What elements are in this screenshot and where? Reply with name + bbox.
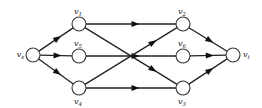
arrowhead-icon <box>132 85 140 91</box>
arrowhead-icon <box>205 36 215 45</box>
arrowhead-icon <box>148 38 158 47</box>
arrowhead-icon <box>206 52 214 58</box>
arrowhead-icon <box>53 34 63 43</box>
arrowhead-icon <box>132 21 140 27</box>
node-label-v3: v3 <box>178 97 187 107</box>
network-diagram: vsv1v5v4v2v6v3vt <box>0 0 262 108</box>
arrowhead-icon <box>205 66 215 75</box>
node-v3 <box>176 81 190 95</box>
node-v5 <box>72 49 86 63</box>
node-vs <box>26 48 40 62</box>
arrowhead-icon <box>53 68 63 78</box>
node-v4 <box>72 81 86 95</box>
arrowhead-icon <box>148 65 158 74</box>
node-label-v4: v4 <box>74 97 83 107</box>
arrowhead-icon <box>54 52 62 58</box>
node-label-vt: vt <box>243 50 251 60</box>
node-v2 <box>176 17 190 31</box>
node-v1 <box>72 17 86 31</box>
node-label-v5: v5 <box>74 39 83 49</box>
node-v6 <box>176 49 190 63</box>
node-label-vs: vs <box>17 50 25 60</box>
edges-layer <box>39 21 227 91</box>
node-label-v6: v6 <box>178 39 187 49</box>
node-label-v2: v2 <box>178 7 187 17</box>
node-vt <box>226 48 240 62</box>
node-label-v1: v1 <box>74 7 82 17</box>
